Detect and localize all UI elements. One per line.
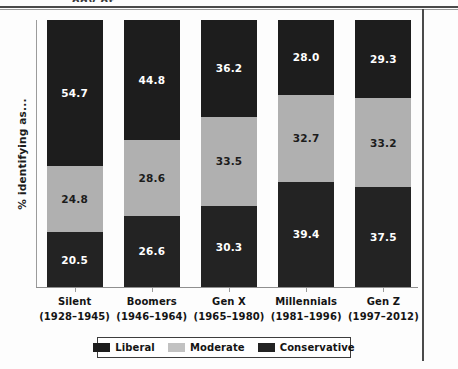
bar-segment-liberal: 28.0 [278, 20, 334, 95]
stacked-bar-chart: % identifying as... 54.724.820.544.828.6… [0, 0, 458, 369]
x-tick [306, 288, 307, 292]
segment-value-label: 26.6 [138, 245, 165, 257]
category-name: Gen Z [367, 296, 400, 307]
x-axis-label-silent: Silent(1928–1945) [36, 294, 113, 324]
bar-segment-conservative: 37.5 [355, 187, 411, 287]
bar-segment-conservative: 30.3 [201, 206, 257, 287]
legend-swatch-conservative [258, 343, 275, 352]
segment-value-label: 28.0 [293, 51, 320, 63]
legend-swatch-liberal [93, 343, 110, 352]
segment-value-label: 32.7 [293, 132, 320, 144]
x-axis-labels: Silent(1928–1945)Boomers(1946–1964)Gen X… [36, 294, 422, 330]
x-axis-label-boomers: Boomers(1946–1964) [113, 294, 190, 324]
x-tick [75, 288, 76, 292]
category-name: Silent [58, 296, 91, 307]
category-name: Boomers [127, 296, 177, 307]
segment-value-label: 20.5 [61, 254, 88, 266]
segment-value-label: 33.5 [216, 155, 243, 167]
bar-segment-moderate: 24.8 [47, 166, 103, 232]
category-years: (1946–1964) [113, 309, 190, 324]
segment-value-label: 33.2 [370, 137, 397, 149]
x-axis-label-millennials: Millennials(1981–1996) [268, 294, 345, 324]
segment-value-label: 54.7 [61, 87, 88, 99]
category-years: (1928–1945) [36, 309, 113, 324]
legend-swatch-moderate [168, 343, 185, 352]
legend-label: Conservative [280, 342, 355, 353]
bar-segment-conservative: 20.5 [47, 232, 103, 287]
segment-value-label: 24.8 [61, 193, 88, 205]
legend-label: Moderate [190, 342, 245, 353]
bar-segment-liberal: 36.2 [201, 20, 257, 117]
segment-value-label: 36.2 [216, 62, 243, 74]
x-axis-label-gen-x: Gen X(1965–1980) [190, 294, 267, 324]
x-tick [229, 288, 230, 292]
category-name: Gen X [212, 296, 246, 307]
legend-item-conservative[interactable]: Conservative [258, 342, 355, 353]
bar-gen-z: 29.333.237.5 [355, 20, 411, 287]
x-tick [152, 288, 153, 292]
legend-label: Liberal [115, 342, 155, 353]
bar-segment-conservative: 39.4 [278, 182, 334, 287]
category-years: (1965–1980) [190, 309, 267, 324]
bar-segment-moderate: 33.2 [355, 98, 411, 187]
bar-segment-liberal: 54.7 [47, 20, 103, 166]
segment-value-label: 30.3 [216, 241, 243, 253]
x-axis-line [36, 287, 418, 288]
bar-silent: 54.724.820.5 [47, 20, 103, 287]
chart-legend: LiberalModerateConservative [97, 337, 351, 358]
category-years: (1981–1996) [268, 309, 345, 324]
bar-segment-moderate: 33.5 [201, 117, 257, 206]
segment-value-label: 39.4 [293, 228, 320, 240]
y-axis-label: % identifying as... [16, 54, 28, 254]
category-years: (1997–2012) [345, 309, 422, 324]
bar-segment-conservative: 26.6 [124, 216, 180, 287]
bar-millennials: 28.032.739.4 [278, 20, 334, 287]
legend-item-liberal[interactable]: Liberal [93, 342, 155, 353]
x-tick [383, 288, 384, 292]
bar-segment-moderate: 28.6 [124, 140, 180, 216]
bar-segment-liberal: 44.8 [124, 20, 180, 140]
segment-value-label: 37.5 [370, 231, 397, 243]
bar-boomers: 44.828.626.6 [124, 20, 180, 287]
segment-value-label: 44.8 [138, 74, 165, 86]
legend-item-moderate[interactable]: Moderate [168, 342, 245, 353]
bar-segment-moderate: 32.7 [278, 95, 334, 182]
segment-value-label: 29.3 [370, 53, 397, 65]
x-axis-label-gen-z: Gen Z(1997–2012) [345, 294, 422, 324]
bar-gen-x: 36.233.530.3 [201, 20, 257, 287]
figure-page: ogy of... % identifying as... 54.724.820… [0, 0, 458, 369]
segment-value-label: 28.6 [138, 172, 165, 184]
bar-segment-liberal: 29.3 [355, 20, 411, 98]
category-name: Millennials [275, 296, 337, 307]
bar-group: 54.724.820.544.828.626.636.233.530.328.0… [36, 20, 422, 287]
